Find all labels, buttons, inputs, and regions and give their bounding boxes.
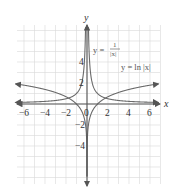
reciprocal-prefix: y =: [93, 45, 104, 55]
x-tick-label: −4: [40, 108, 50, 118]
y-axis-label: y: [83, 12, 89, 23]
y-tick-label: −2: [75, 120, 85, 130]
x-tick-label: 0: [84, 108, 89, 118]
x-axis-label: x: [163, 98, 169, 109]
x-tick-label: −6: [19, 108, 29, 118]
annotation-reciprocal: y = 1 |x|: [93, 41, 120, 58]
reciprocal-numerator: 1: [113, 41, 117, 49]
x-tick-label: −2: [61, 108, 71, 118]
x-tick-label: 6: [147, 108, 152, 118]
y-tick-label: −4: [75, 141, 85, 151]
annotation-ln: y = ln |x|: [121, 62, 151, 72]
x-tick-label: 4: [126, 108, 131, 118]
y-tick-label: 4: [79, 57, 84, 67]
function-graph: −6−4−20246−4−224 x y y = 1 |x| y = ln |x…: [0, 0, 174, 194]
x-tick-label: 2: [105, 108, 110, 118]
y-tick-label: 2: [79, 78, 84, 88]
reciprocal-denominator: |x|: [110, 50, 116, 58]
